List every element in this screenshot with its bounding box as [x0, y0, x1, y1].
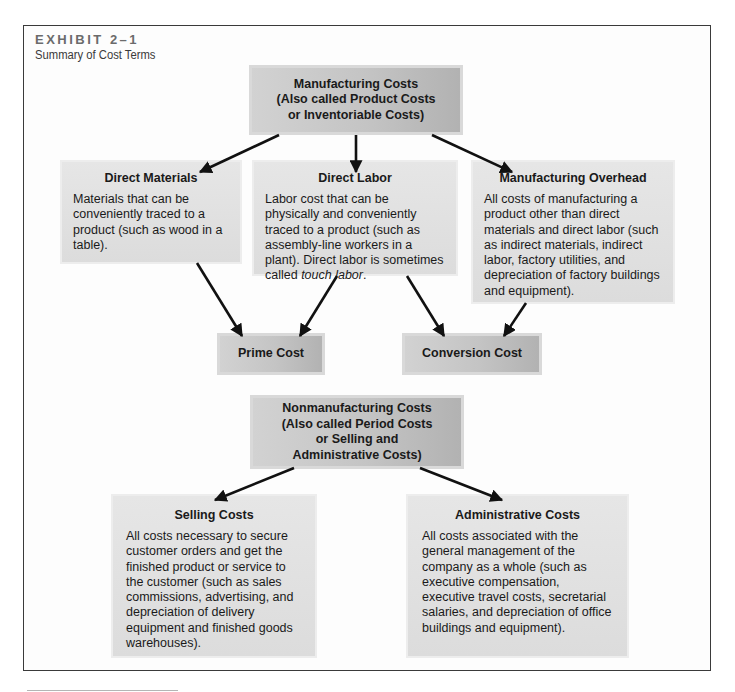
administrative-costs-description: All costs associated with the general ma… [408, 523, 627, 636]
manufacturing-costs-title: Manufacturing Costs [276, 77, 435, 93]
manufacturing-overhead-title: Manufacturing Overhead [473, 171, 673, 186]
direct-labor-title: Direct Labor [254, 171, 456, 186]
exhibit-subtitle: Summary of Cost Terms [35, 48, 155, 62]
manufacturing-overhead-box: Manufacturing Overhead All costs of manu… [473, 162, 673, 302]
direct-materials-description: Materials that can be conveniently trace… [62, 186, 240, 253]
touch-labor-term: touch labor [301, 268, 363, 282]
manufacturing-costs-alias-2: or Inventoriable Costs) [276, 108, 435, 124]
prime-cost-title: Prime Cost [238, 346, 304, 362]
direct-labor-text-end: . [363, 268, 366, 282]
direct-labor-box: Direct Labor Labor cost that can be phys… [254, 162, 456, 274]
selling-costs-description: All costs necessary to secure customer o… [113, 523, 315, 651]
administrative-costs-title: Administrative Costs [408, 508, 627, 523]
nonmanufacturing-costs-title: Nonmanufacturing Costs [282, 401, 433, 417]
prime-cost-box: Prime Cost [220, 336, 322, 372]
nonmanufacturing-costs-alias-3: Administrative Costs) [282, 448, 433, 464]
exhibit-label: EXHIBIT 2–1 [35, 32, 139, 47]
conversion-cost-title: Conversion Cost [422, 346, 522, 362]
selling-costs-box: Selling Costs All costs necessary to sec… [113, 496, 315, 656]
footnote-divider [27, 690, 178, 691]
direct-labor-description: Labor cost that can be physically and co… [254, 186, 456, 284]
selling-costs-title: Selling Costs [113, 508, 315, 523]
administrative-costs-box: Administrative Costs All costs associate… [408, 496, 627, 656]
nonmanufacturing-costs-box: Nonmanufacturing Costs (Also called Peri… [253, 398, 461, 466]
nonmanufacturing-costs-alias-2: or Selling and [282, 432, 433, 448]
nonmanufacturing-costs-alias-1: (Also called Period Costs [282, 417, 433, 433]
conversion-cost-box: Conversion Cost [405, 336, 539, 372]
direct-materials-title: Direct Materials [62, 171, 240, 186]
manufacturing-costs-box: Manufacturing Costs (Also called Product… [252, 68, 460, 132]
manufacturing-overhead-description: All costs of manufacturing a product oth… [473, 186, 673, 299]
manufacturing-costs-alias-1: (Also called Product Costs [276, 92, 435, 108]
direct-materials-box: Direct Materials Materials that can be c… [62, 162, 240, 262]
